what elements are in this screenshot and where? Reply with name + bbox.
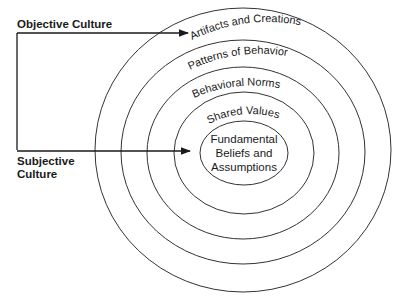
subjective-culture-label-line1: Subjective [17, 155, 75, 167]
ring-label-values: Shared Values [205, 104, 282, 126]
core-line-2: Beliefs and [216, 147, 273, 159]
subjective-culture-label-line2: Culture [17, 168, 57, 180]
objective-culture-label: Objective Culture [17, 18, 112, 30]
ring-label-norms: Behavioral Norms [190, 76, 282, 100]
culture-levels-diagram: Artifacts and Creations Patterns of Beha… [0, 0, 405, 303]
ring-label-artifacts: Artifacts and Creations [188, 12, 303, 42]
core-line-3: Assumptions [211, 161, 277, 173]
core-line-1: Fundamental [210, 133, 277, 145]
